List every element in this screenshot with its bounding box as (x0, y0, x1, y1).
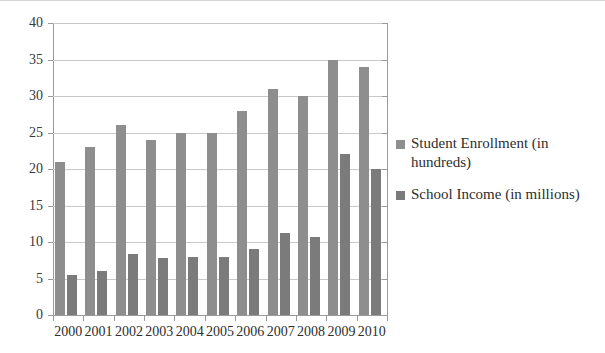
y-axis-tick-label: 25 (3, 126, 43, 140)
y-axis-tick (48, 169, 53, 170)
bar-series-2 (310, 237, 320, 315)
bar-series-1 (85, 147, 95, 315)
x-axis-tick (83, 315, 84, 321)
legend-entry[interactable]: Student Enrollment (in hundreds) (396, 134, 601, 172)
x-axis-tick (387, 315, 388, 321)
bar-series-1 (176, 133, 186, 316)
x-axis-tick (144, 315, 145, 321)
bar-series-1 (207, 133, 217, 316)
bar-series-2 (67, 275, 77, 315)
y-axis-tick-right (382, 206, 387, 207)
bar-series-2 (280, 233, 290, 315)
y-axis-tick-right (382, 169, 387, 170)
x-axis-tick-label: 2010 (352, 323, 392, 341)
bar-group (114, 23, 144, 315)
y-axis-tick-label: 10 (3, 235, 43, 249)
bar-series-2 (128, 254, 138, 315)
bar-series-1 (268, 89, 278, 315)
bar-series-1 (116, 125, 126, 315)
plot-area (53, 23, 387, 315)
bar-series-1 (328, 60, 338, 316)
y-axis-tick-label: 35 (3, 53, 43, 67)
bar-series-2 (371, 169, 381, 315)
y-axis-tick-label: 20 (3, 162, 43, 176)
bar-group (266, 23, 296, 315)
plot-right-border (387, 23, 388, 315)
x-axis-tick (53, 315, 54, 321)
x-axis-tick (266, 315, 267, 321)
y-axis-tick (48, 60, 53, 61)
x-axis-tick (296, 315, 297, 321)
legend-swatch-icon (396, 140, 405, 149)
y-axis-tick-right (382, 242, 387, 243)
x-axis-tick (114, 315, 115, 321)
bar-series-1 (55, 162, 65, 315)
bar-series-2 (219, 257, 229, 315)
y-axis-tick-label: 5 (3, 272, 43, 286)
bar-series-2 (97, 271, 107, 315)
y-axis-tick-right (382, 23, 387, 24)
x-axis-tick (357, 315, 358, 321)
bar-series-1 (146, 140, 156, 315)
y-axis-tick-label: 15 (3, 199, 43, 213)
x-axis-tick (205, 315, 206, 321)
bar-group (174, 23, 204, 315)
bar-group (83, 23, 113, 315)
y-axis-tick (48, 242, 53, 243)
x-axis-line (53, 315, 388, 322)
bar-series-2 (188, 257, 198, 315)
bar-group (144, 23, 174, 315)
y-axis-labels: 0510152025303540 (0, 23, 53, 315)
bar-group (235, 23, 265, 315)
y-axis-tick (48, 315, 53, 316)
y-axis-tick (48, 133, 53, 134)
bar-chart: 0510152025303540 20002001200220032004200… (0, 0, 605, 353)
x-axis-labels: 2000200120022003200420052006200720082009… (53, 323, 388, 347)
y-axis-tick-right (382, 279, 387, 280)
legend-entry[interactable]: School Income (in millions) (396, 185, 601, 204)
y-axis-tick (48, 23, 53, 24)
y-axis-tick (48, 96, 53, 97)
chart-legend: Student Enrollment (in hundreds)School I… (396, 134, 601, 217)
y-axis-tick-right (382, 96, 387, 97)
x-axis-tick (174, 315, 175, 321)
y-axis-tick-label: 40 (3, 16, 43, 30)
y-axis-tick-right (382, 60, 387, 61)
bar-series-1 (237, 111, 247, 315)
y-axis-tick (48, 279, 53, 280)
legend-label: School Income (in millions) (411, 185, 580, 204)
x-axis-tick (326, 315, 327, 321)
x-axis-tick (235, 315, 236, 321)
bar-group (326, 23, 356, 315)
bar-series-1 (359, 67, 369, 315)
bar-group (53, 23, 83, 315)
bar-series-2 (340, 154, 350, 315)
y-axis-tick-label: 0 (3, 308, 43, 322)
y-axis-tick (48, 206, 53, 207)
y-axis-tick-label: 30 (3, 89, 43, 103)
bar-group (296, 23, 326, 315)
legend-label: Student Enrollment (in hundreds) (411, 134, 601, 172)
y-axis-tick-right (382, 133, 387, 134)
bar-series-2 (249, 249, 259, 315)
x-axis-baseline (53, 315, 388, 316)
legend-swatch-icon (396, 191, 405, 200)
bar-series-1 (298, 96, 308, 315)
y-axis-tick-right (382, 315, 387, 316)
bar-group (205, 23, 235, 315)
bar-series-2 (158, 258, 168, 315)
